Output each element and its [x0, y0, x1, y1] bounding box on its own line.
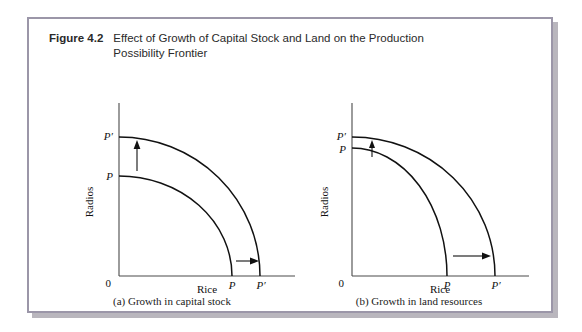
shift-arrow-horizontal-a — [236, 258, 259, 265]
y-axis-title-a: Radios — [83, 187, 95, 218]
chart-panel-a: P′ P 0 P P′ Rice Radios (a) Growth in ca… — [47, 97, 297, 297]
figure-title: Effect of Growth of Capital Stock and La… — [113, 31, 468, 61]
figure-frame: Figure 4.2 Effect of Growth of Capital S… — [27, 17, 553, 313]
y-axis-title-b: Radios — [318, 187, 330, 218]
label-y-outer-b: P′ — [336, 130, 347, 142]
ppf-curve-expanded-a — [119, 137, 260, 276]
panel-caption-a: (a) Growth in capital stock — [47, 295, 297, 307]
chart-svg-b: P′ P 0 P P′ Rice Radios — [294, 97, 544, 293]
ppf-curve-initial-b — [352, 148, 447, 276]
x-axis-title-a: Rice — [197, 283, 217, 293]
origin-label-a: 0 — [106, 277, 112, 289]
ppf-curve-expanded-b — [352, 137, 495, 276]
figure-caption: Figure 4.2 Effect of Growth of Capital S… — [49, 31, 519, 61]
shift-arrow-horizontal-b — [453, 253, 491, 260]
label-y-outer-a: P′ — [103, 130, 114, 142]
shift-arrow-vertical-a — [134, 140, 141, 171]
figure-number: Figure 4.2 — [49, 31, 103, 46]
shift-arrow-vertical-b — [369, 140, 375, 157]
panel-caption-b: (b) Growth in land resources — [294, 295, 544, 307]
label-x-outer-a: P′ — [255, 279, 266, 291]
label-x-inner-a: P — [228, 279, 236, 291]
chart-svg-a: P′ P 0 P P′ Rice Radios — [47, 97, 297, 293]
chart-panel-b: P′ P 0 P P′ Rice Radios (b) Growth in la… — [294, 97, 544, 297]
origin-label-b: 0 — [339, 277, 345, 289]
ppf-curve-initial-a — [119, 176, 232, 276]
label-y-inner-a: P — [105, 170, 113, 182]
x-axis-title-b: Rice — [430, 283, 450, 293]
label-y-inner-b: P — [338, 143, 346, 155]
label-x-outer-b: P′ — [490, 279, 501, 291]
